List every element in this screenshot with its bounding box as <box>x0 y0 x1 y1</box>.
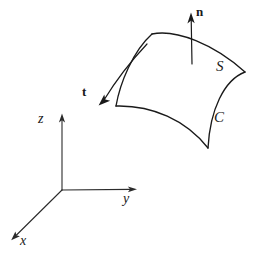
figure-canvas <box>0 0 260 253</box>
coordinate-axes <box>11 114 137 241</box>
normal-vector-label: n <box>196 5 203 18</box>
x-axis <box>11 190 62 240</box>
y-axis-label: y <box>123 192 129 206</box>
z-axis-label: z <box>38 112 43 126</box>
surface-edge-top <box>152 33 245 72</box>
tangent-vector-label: t <box>82 85 86 98</box>
surface-label: S <box>216 59 224 74</box>
surface-patch <box>116 33 245 148</box>
x-axis-label: x <box>20 234 26 248</box>
z-axis <box>59 114 65 191</box>
tangent-vector-arrow <box>99 44 147 106</box>
surface-edge-bottom <box>116 106 208 148</box>
vector-calculus-figure: n t S C z y x <box>0 0 260 253</box>
tangent-arrowhead <box>99 95 111 106</box>
boundary-curve-label: C <box>214 110 224 125</box>
